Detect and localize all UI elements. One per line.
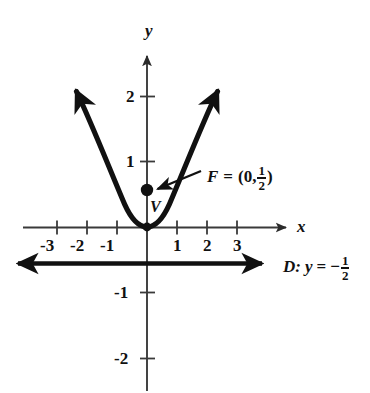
parabola-figure: y x -3 -2 -1 1 2 3 2 1 -1 -2 V F = (0, 1… bbox=[0, 0, 370, 393]
focus-fraction-one-half: 1 2 bbox=[257, 164, 266, 192]
x-tick-label--3: -3 bbox=[40, 237, 54, 254]
y-tick-label-2: 2 bbox=[126, 88, 135, 105]
x-tick-label-2: 2 bbox=[203, 237, 212, 254]
directrix-annotation: D: y = − 1 2 bbox=[283, 253, 350, 281]
directrix-fraction-one-half: 1 2 bbox=[341, 254, 350, 282]
y-axis-label: y bbox=[145, 22, 153, 39]
vertex-point-marker bbox=[143, 223, 152, 232]
x-tick-label--2: -2 bbox=[70, 237, 84, 254]
x-axis-label: x bbox=[297, 218, 306, 235]
directrix-symbol: D: bbox=[283, 258, 301, 275]
directrix-fraction-numerator: 1 bbox=[341, 254, 350, 267]
focus-equals: = bbox=[223, 168, 233, 185]
focus-point-marker bbox=[141, 184, 153, 196]
y-tick-label--1: -1 bbox=[114, 284, 128, 301]
directrix-fraction-denominator: 2 bbox=[341, 269, 350, 282]
focus-open-paren: (0, bbox=[238, 168, 256, 185]
focus-fraction-numerator: 1 bbox=[257, 164, 266, 177]
directrix-equals: = bbox=[317, 258, 327, 275]
focus-annotation: F = (0, 1 2 ) bbox=[207, 163, 273, 191]
directrix-variable: y bbox=[305, 258, 313, 275]
x-tick-label--1: -1 bbox=[100, 237, 114, 254]
parabola-plot-svg bbox=[0, 0, 370, 393]
x-tick-label-1: 1 bbox=[173, 237, 182, 254]
vertex-label: V bbox=[150, 199, 161, 215]
y-tick-label-1: 1 bbox=[126, 153, 135, 170]
directrix-minus-sign: − bbox=[330, 258, 340, 275]
focus-close-paren: ) bbox=[267, 168, 273, 185]
focus-fraction-denominator: 2 bbox=[257, 179, 266, 192]
y-tick-label--2: -2 bbox=[114, 350, 128, 367]
focus-symbol: F bbox=[207, 168, 218, 185]
x-tick-label-3: 3 bbox=[233, 237, 242, 254]
